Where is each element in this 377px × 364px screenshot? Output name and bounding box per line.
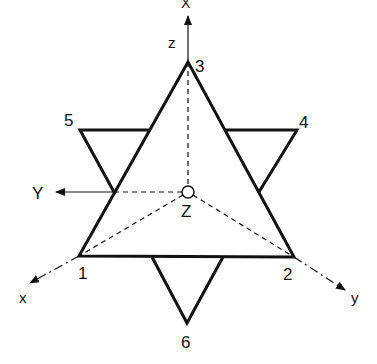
label-vertex-5: 5	[64, 111, 73, 130]
label-Z: Z	[181, 202, 191, 221]
label-vertex-3: 3	[195, 57, 204, 76]
triangle-5	[80, 130, 150, 192]
origin-circle	[182, 186, 194, 198]
triangle-6	[152, 257, 223, 323]
label-vertex-2: 2	[283, 265, 292, 284]
upright-triangle	[79, 62, 294, 257]
label-vertex-1: 1	[78, 264, 87, 283]
triangle-4	[225, 130, 297, 192]
label-x: x	[19, 289, 27, 306]
label-X-top: X	[181, 0, 191, 11]
label-vertex-4: 4	[299, 113, 308, 132]
x-axis	[30, 256, 79, 283]
label-z: z	[168, 34, 176, 51]
diagram-canvas: X z 3 5 4 Y Z 1 2 x y 6	[0, 0, 377, 364]
label-vertex-6: 6	[181, 333, 190, 352]
y-axis	[294, 257, 345, 290]
label-Y: Y	[32, 184, 43, 203]
label-y: y	[351, 289, 359, 306]
